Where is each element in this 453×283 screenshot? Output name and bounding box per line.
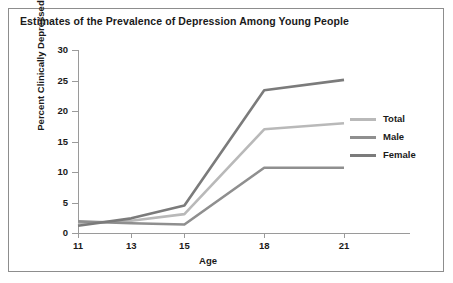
legend-swatch-female xyxy=(350,154,376,157)
y-tick-label: 5 xyxy=(28,198,68,208)
x-tick-mark xyxy=(78,233,79,238)
x-tick-label: 21 xyxy=(329,241,359,251)
x-tick-mark xyxy=(344,233,345,238)
legend-item-female: Female xyxy=(350,146,436,164)
y-axis-label: Percent Clinically Depressed xyxy=(35,0,46,136)
y-tick-mark xyxy=(72,203,78,204)
chart-figure: Estimates of the Prevalence of Depressio… xyxy=(0,0,453,283)
legend-label-female: Female xyxy=(383,150,416,160)
y-tick-label: 0 xyxy=(28,228,68,238)
legend-swatch-male xyxy=(350,136,376,139)
chart-legend: Total Male Female xyxy=(350,110,436,164)
legend-label-male: Male xyxy=(383,132,404,142)
x-tick-mark xyxy=(184,233,185,238)
y-tick-mark xyxy=(72,50,78,51)
x-tick-label: 18 xyxy=(249,241,279,251)
y-tick-mark xyxy=(72,142,78,143)
legend-item-male: Male xyxy=(350,128,436,146)
x-tick-mark xyxy=(264,233,265,238)
y-axis-line xyxy=(78,50,79,234)
y-tick-mark xyxy=(72,81,78,82)
x-tick-label: 15 xyxy=(169,241,199,251)
chart-title: Estimates of the Prevalence of Depressio… xyxy=(20,15,349,27)
y-tick-mark xyxy=(72,111,78,112)
y-tick-mark xyxy=(72,172,78,173)
x-tick-label: 11 xyxy=(63,241,93,251)
x-tick-mark xyxy=(131,233,132,238)
x-axis-line xyxy=(78,233,410,234)
x-tick-label: 13 xyxy=(116,241,146,251)
legend-label-total: Total xyxy=(383,114,405,124)
legend-item-total: Total xyxy=(350,110,436,128)
x-axis-label: Age xyxy=(78,255,338,266)
y-tick-label: 10 xyxy=(28,167,68,177)
legend-swatch-total xyxy=(350,118,376,121)
y-tick-label: 15 xyxy=(28,137,68,147)
